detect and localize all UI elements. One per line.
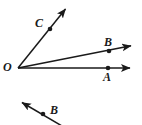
point-C-dot bbox=[48, 27, 53, 32]
ray-OB-line bbox=[18, 46, 131, 68]
label-point-A: A bbox=[103, 71, 111, 83]
label-point-B-lower: B bbox=[50, 104, 58, 116]
geometry-canvas bbox=[0, 0, 142, 125]
geometry-figure: O C B A B bbox=[0, 0, 142, 125]
point-B-upper-dot bbox=[107, 49, 112, 54]
point-B-lower-dot bbox=[41, 112, 46, 117]
label-vertex-O: O bbox=[3, 61, 12, 73]
label-point-B-upper: B bbox=[104, 36, 112, 48]
label-point-C: C bbox=[35, 17, 43, 29]
ray-OB-group bbox=[18, 46, 131, 68]
ray-OA-group bbox=[18, 66, 130, 71]
